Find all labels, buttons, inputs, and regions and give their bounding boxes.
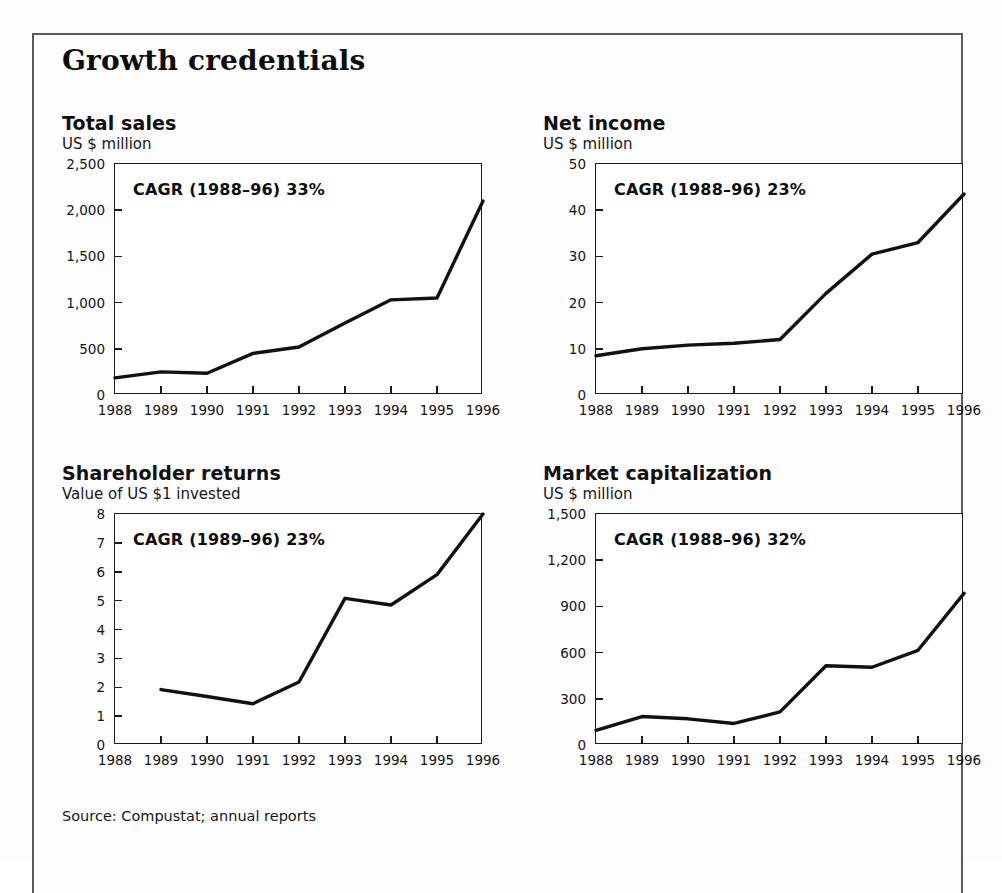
x-axis-tick-label: 1991 [717, 752, 751, 768]
panel-subtitle: Value of US $1 invested [62, 485, 482, 504]
x-axis-tick-label: 1995 [901, 402, 935, 418]
y-axis-tick-label: 5 [45, 593, 105, 609]
data-line [115, 201, 483, 378]
panel-shareholder-returns: Shareholder returns Value of US $1 inves… [62, 462, 482, 793]
series-line-total_sales [115, 164, 483, 395]
panel-title: Shareholder returns [62, 462, 482, 484]
x-axis-tick-label: 1995 [420, 752, 454, 768]
x-axis-tick-label: 1988 [98, 752, 132, 768]
x-axis-tick-label: 1995 [420, 402, 454, 418]
x-axis-tick-label: 1992 [763, 752, 797, 768]
x-axis-tick-label: 1991 [236, 752, 270, 768]
y-axis-tick-label: 40 [526, 202, 586, 218]
x-axis-tick-label: 1993 [328, 752, 362, 768]
x-axis-tick-label: 1989 [144, 402, 178, 418]
x-axis-tick-label: 1992 [282, 752, 316, 768]
x-axis-tick-label: 1996 [947, 402, 981, 418]
x-axis-tick-label: 1990 [190, 402, 224, 418]
chart-shareholder-returns: 0123456781988198919901991199219931994199… [62, 513, 482, 793]
x-axis-tick-label: 1994 [855, 752, 889, 768]
plot-area: 0123456781988198919901991199219931994199… [114, 513, 482, 744]
x-axis-tick-label: 1993 [328, 402, 362, 418]
x-axis-tick-label: 1988 [98, 402, 132, 418]
y-axis-tick-label: 7 [45, 535, 105, 551]
y-axis-tick-label: 0 [526, 387, 586, 403]
y-axis-tick-label: 2,000 [45, 202, 105, 218]
source-note: Source: Compustat; annual reports [62, 808, 316, 824]
y-axis-tick-label: 30 [526, 248, 586, 264]
data-line [596, 593, 964, 730]
x-axis-tick-label: 1994 [374, 402, 408, 418]
panel-title: Market capitalization [543, 462, 963, 484]
plot-area: 03006009001,2001,50019881989199019911992… [595, 513, 963, 744]
x-axis-tick-label: 1993 [809, 752, 843, 768]
y-axis-tick-label: 20 [526, 295, 586, 311]
x-axis-tick-label: 1992 [282, 402, 316, 418]
y-axis-tick-label: 0 [526, 737, 586, 753]
x-axis-tick-label: 1996 [466, 402, 500, 418]
page-title: Growth credentials [62, 44, 366, 77]
y-axis-tick-label: 500 [45, 341, 105, 357]
y-axis-tick-label: 1 [45, 708, 105, 724]
y-axis-tick-label: 3 [45, 650, 105, 666]
data-line [596, 194, 964, 356]
y-axis-tick-label: 50 [526, 156, 586, 172]
x-axis-tick-label: 1992 [763, 402, 797, 418]
plot-area: 05001,0001,5002,0002,5001988198919901991… [114, 163, 482, 394]
x-axis-tick-label: 1993 [809, 402, 843, 418]
panel-total-sales: Total sales US $ million 05001,0001,5002… [62, 112, 482, 443]
y-axis-tick-label: 1,000 [45, 295, 105, 311]
panel-title: Net income [543, 112, 963, 134]
x-axis-tick-label: 1990 [671, 752, 705, 768]
series-line-shareholder_returns [115, 514, 483, 745]
x-axis-tick-label: 1990 [190, 752, 224, 768]
y-axis-tick-label: 2,500 [45, 156, 105, 172]
panel-market-capitalization: Market capitalization US $ million 03006… [543, 462, 963, 793]
panel-subtitle: US $ million [543, 135, 963, 154]
plot-area: 0102030405019881989199019911992199319941… [595, 163, 963, 394]
y-axis-tick-label: 1,500 [45, 248, 105, 264]
x-axis-tick-label: 1989 [144, 752, 178, 768]
chart-total-sales: 05001,0001,5002,0002,5001988198919901991… [62, 163, 482, 443]
panel-subtitle: US $ million [543, 485, 963, 504]
y-axis-tick-label: 6 [45, 564, 105, 580]
x-axis-tick-label: 1994 [855, 402, 889, 418]
x-axis-tick-label: 1994 [374, 752, 408, 768]
panel-net-income: Net income US $ million 0102030405019881… [543, 112, 963, 443]
y-axis-tick-label: 900 [526, 598, 586, 614]
y-axis-tick-label: 0 [45, 737, 105, 753]
chart-market-capitalization: 03006009001,2001,50019881989199019911992… [543, 513, 963, 793]
series-line-net_income [596, 164, 964, 395]
y-axis-tick-label: 600 [526, 645, 586, 661]
y-axis-tick-label: 2 [45, 679, 105, 695]
y-axis-tick-label: 0 [45, 387, 105, 403]
x-axis-tick-label: 1988 [579, 402, 613, 418]
y-axis-tick-label: 4 [45, 622, 105, 638]
x-axis-tick-label: 1988 [579, 752, 613, 768]
panel-title: Total sales [62, 112, 482, 134]
x-axis-tick-label: 1989 [625, 402, 659, 418]
y-axis-tick-label: 1,200 [526, 552, 586, 568]
x-axis-tick-label: 1996 [947, 752, 981, 768]
panel-subtitle: US $ million [62, 135, 482, 154]
x-axis-tick-label: 1990 [671, 402, 705, 418]
y-axis-tick-label: 300 [526, 691, 586, 707]
series-line-market_capitalization [596, 514, 964, 745]
y-axis-tick-label: 10 [526, 341, 586, 357]
y-axis-tick-label: 8 [45, 506, 105, 522]
chart-net-income: 0102030405019881989199019911992199319941… [543, 163, 963, 443]
data-line [161, 514, 483, 704]
y-axis-tick-label: 1,500 [526, 506, 586, 522]
x-axis-tick-label: 1996 [466, 752, 500, 768]
x-axis-tick-label: 1991 [236, 402, 270, 418]
x-axis-tick-label: 1991 [717, 402, 751, 418]
x-axis-tick-label: 1995 [901, 752, 935, 768]
x-axis-tick-label: 1989 [625, 752, 659, 768]
